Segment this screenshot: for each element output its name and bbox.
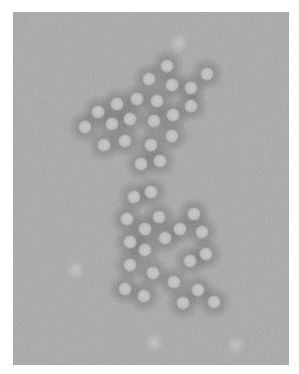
micrograph-image xyxy=(13,12,289,365)
virus-particles-layer xyxy=(13,12,289,365)
